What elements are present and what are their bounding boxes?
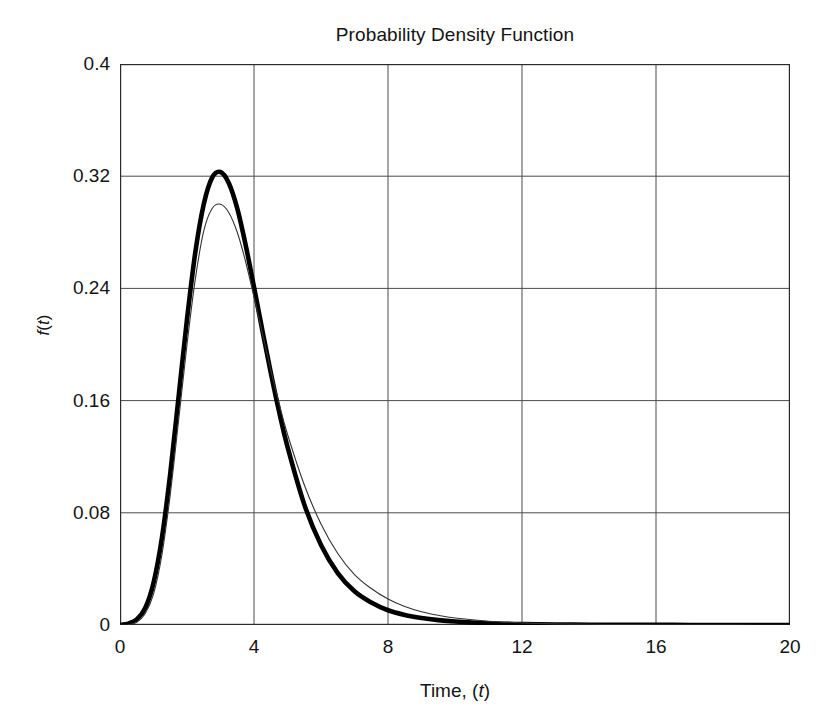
y-axis-tick-label: 0.4 (84, 54, 110, 73)
x-axis-tick-label: 4 (249, 637, 260, 656)
x-axis-tick-label: 20 (779, 637, 800, 656)
y-axis-function-symbol: f (34, 331, 53, 336)
y-axis-tick-label: 0 (99, 615, 110, 634)
x-axis-tick-label: 12 (511, 637, 532, 656)
data-series (120, 172, 790, 625)
chart-figure: Probability Density Function 00.080.160.… (0, 0, 834, 727)
y-axis-tick-label: 0.08 (73, 503, 110, 522)
gridlines (120, 64, 790, 625)
y-axis-tick-labels: 00.080.160.240.320.4 (46, 64, 110, 625)
plot-frame (120, 64, 790, 625)
y-axis-tick-label: 0.32 (73, 166, 110, 185)
y-axis-title: f(t) (34, 295, 54, 355)
plot-area (120, 64, 790, 625)
y-axis-tick-label: 0.24 (73, 278, 110, 297)
x-axis-tick-labels: 048121620 (120, 637, 790, 665)
plot-svg (120, 64, 790, 625)
chart-title: Probability Density Function (120, 24, 790, 46)
plot-border (121, 65, 790, 625)
series-line-thick-curve (120, 172, 790, 625)
x-axis-variable: t (478, 680, 483, 701)
x-axis-title: Time, (t) (120, 680, 790, 702)
x-axis-tick-label: 8 (383, 637, 394, 656)
y-axis-variable: t (34, 320, 53, 325)
y-axis-tick-label: 0.16 (73, 391, 110, 410)
x-axis-tick-label: 0 (115, 637, 126, 656)
series-line-thin-curve (120, 204, 790, 625)
x-axis-tick-label: 16 (645, 637, 666, 656)
